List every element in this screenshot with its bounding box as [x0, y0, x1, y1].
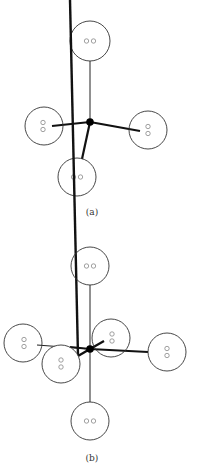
- electron-icon: [41, 120, 45, 124]
- bond-a-right: [90, 122, 140, 131]
- electron-icon: [146, 124, 150, 128]
- caption-b: (b): [86, 453, 99, 463]
- lobe-b-right: [148, 333, 186, 371]
- electron-icon: [165, 353, 169, 357]
- bond-a-bottom: [82, 122, 90, 159]
- electron-icon: [84, 419, 88, 423]
- electron-icon: [78, 175, 82, 179]
- central-atom-a: [86, 118, 94, 126]
- lobe-a-top: [70, 21, 110, 61]
- electron-icon: [91, 39, 95, 43]
- electron-icon: [146, 131, 150, 135]
- central-atom-b: [86, 345, 94, 353]
- figure-b: (b): [4, 0, 186, 463]
- electron-icon: [91, 419, 95, 423]
- electron-icon: [84, 39, 88, 43]
- lobe-b-left: [4, 324, 42, 362]
- electron-icon: [165, 346, 169, 350]
- lobe-b-front-left: [42, 345, 80, 383]
- caption-a: (a): [86, 207, 98, 217]
- electron-icon: [41, 127, 45, 131]
- lobe-b-bottom: [71, 402, 109, 440]
- figure-a: (a): [25, 21, 167, 217]
- bond-a-left: [52, 122, 90, 126]
- electron-icon: [84, 264, 88, 268]
- electron-icon: [22, 337, 26, 341]
- lobe-b-back-right: [92, 319, 130, 357]
- lobe-a-bottom: [58, 158, 96, 196]
- electron-icon: [22, 344, 26, 348]
- electron-icon: [91, 264, 95, 268]
- diagram-canvas: (a): [0, 0, 197, 476]
